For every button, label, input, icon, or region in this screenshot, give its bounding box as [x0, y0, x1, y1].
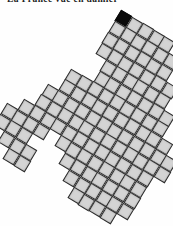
figure-page: La France vue en damier — [0, 0, 173, 226]
grid-cartogram-map — [0, 0, 173, 226]
